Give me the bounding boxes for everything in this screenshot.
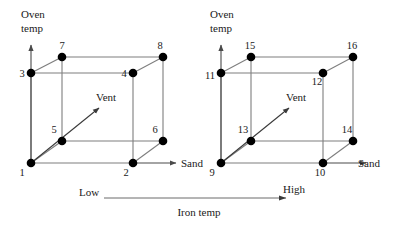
right-cube-vertex-13	[247, 137, 256, 146]
iron-temp-caption: Iron temp	[177, 206, 221, 218]
right-cube-edge-depth-bottom-right	[323, 141, 353, 163]
left-cube-label-1: 1	[19, 167, 24, 178]
left-cube-vertex-7	[58, 53, 67, 62]
right-cube-group: 9 10 11 12 13 14 15 16 Oven temp Sand Ve…	[205, 8, 381, 178]
left-cube-label-7: 7	[59, 40, 64, 51]
factorial-design-figure: 1 2 3 4 5 6 7 8 Oven temp Sand Vent	[0, 0, 398, 232]
left-cube-group: 1 2 3 4 5 6 7 8 Oven temp Sand Vent	[19, 8, 203, 178]
right-cube-vertex-9	[217, 159, 226, 168]
right-cube-label-14: 14	[342, 124, 353, 135]
left-cube-vertex-6	[159, 137, 168, 146]
right-cube-label-12: 12	[312, 76, 323, 87]
right-cube-label-10: 10	[315, 167, 326, 178]
left-cube-vertex-1	[27, 159, 36, 168]
right-cube-edge-depth-top-left	[221, 57, 251, 73]
left-cube-vertex-2	[129, 159, 138, 168]
left-cube-sand-caption: Sand	[181, 157, 204, 169]
right-cube-vertex-15	[247, 53, 256, 62]
left-cube-edge-depth-bottom-right	[133, 141, 163, 163]
right-cube-vertex-16	[349, 53, 358, 62]
right-cube-vent-axis	[221, 108, 289, 163]
iron-temp-high-label: High	[283, 183, 306, 195]
right-cube-oven-temp-caption-line1: Oven	[210, 8, 234, 20]
left-cube-label-2: 2	[123, 167, 128, 178]
left-cube-label-3: 3	[19, 68, 24, 79]
right-cube-vertex-11	[217, 69, 226, 78]
left-cube-label-8: 8	[157, 40, 162, 51]
right-cube-label-16: 16	[347, 40, 358, 51]
left-cube-oven-temp-caption-line2: temp	[21, 22, 43, 34]
right-cube-sand-caption: Sand	[358, 157, 381, 169]
left-cube-vent-caption: Vent	[96, 91, 116, 103]
left-cube-oven-temp-caption-line1: Oven	[21, 8, 45, 20]
cube-diagram-canvas: 1 2 3 4 5 6 7 8 Oven temp Sand Vent	[0, 0, 398, 232]
left-cube-vertex-3	[27, 69, 36, 78]
right-cube-label-15: 15	[245, 40, 256, 51]
left-cube-label-5: 5	[51, 124, 56, 135]
left-cube-vertex-5	[58, 137, 67, 146]
right-cube-label-9: 9	[209, 167, 214, 178]
iron-temp-scale-group: Low High Iron temp	[79, 183, 306, 218]
right-cube-oven-temp-caption-line2: temp	[210, 22, 232, 34]
left-cube-vertex-4	[129, 69, 138, 78]
left-cube-label-6: 6	[152, 124, 157, 135]
right-cube-label-13: 13	[238, 124, 249, 135]
right-cube-vertex-14	[349, 137, 358, 146]
left-cube-edge-depth-top-right	[133, 57, 163, 73]
right-cube-vent-caption: Vent	[286, 91, 306, 103]
iron-temp-low-label: Low	[79, 186, 99, 198]
left-cube-vertex-8	[159, 53, 168, 62]
right-cube-label-11: 11	[205, 70, 215, 81]
left-cube-edge-depth-top-left	[31, 57, 62, 73]
right-cube-vertex-10	[319, 159, 328, 168]
right-cube-edge-depth-top-right	[323, 57, 353, 73]
left-cube-vent-axis	[31, 108, 99, 163]
left-cube-label-4: 4	[121, 68, 127, 79]
